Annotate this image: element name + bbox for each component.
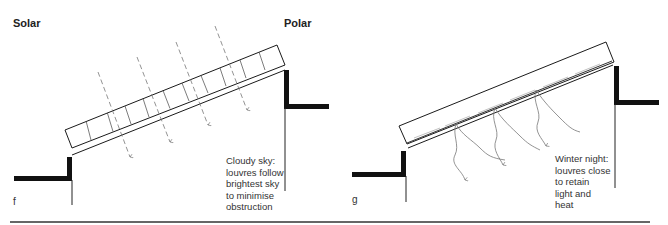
roof-rail-g bbox=[408, 65, 613, 148]
louvre-box-f bbox=[65, 45, 285, 148]
polar-label: Polar bbox=[284, 17, 312, 29]
polar-wall-g bbox=[614, 66, 659, 188]
louvre-blades-g bbox=[414, 64, 600, 138]
roof-rail-f bbox=[72, 70, 285, 155]
panel-letter-g: g bbox=[352, 194, 358, 205]
caption-f: Cloudy sky: louvres follow brightest sky… bbox=[226, 155, 284, 213]
louvre-blades-f bbox=[86, 52, 265, 140]
panel-letter-f: f bbox=[13, 196, 16, 207]
caption-g: Winter night: louvres close to retain li… bbox=[555, 153, 610, 211]
heat-ray bbox=[536, 90, 580, 132]
solar-label: Solar bbox=[13, 17, 41, 29]
heat-ray bbox=[454, 124, 465, 180]
polar-wall-f bbox=[284, 70, 329, 191]
solar-wall-f bbox=[14, 157, 72, 205]
panel-g bbox=[352, 42, 659, 202]
heat-ray bbox=[535, 90, 546, 146]
closed-louvres-g bbox=[407, 61, 612, 143]
light-rays-f bbox=[98, 26, 247, 157]
solar-wall-g bbox=[352, 151, 406, 202]
louvre-box-g bbox=[399, 42, 614, 144]
heat-ray bbox=[495, 108, 540, 150]
